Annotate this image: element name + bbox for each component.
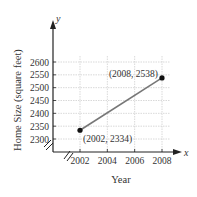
series-line bbox=[80, 78, 162, 130]
y-tick-labels: 2300235024002450250025502600 bbox=[30, 58, 56, 145]
y-axis-variable: y bbox=[55, 13, 61, 24]
data-point bbox=[77, 128, 82, 133]
y-tick-label: 2450 bbox=[30, 96, 49, 106]
y-tick-label: 2350 bbox=[30, 122, 49, 132]
x-tick-label: 2008 bbox=[153, 156, 172, 166]
x-axis-variable: x bbox=[183, 147, 189, 158]
x-tick-label: 2002 bbox=[71, 156, 90, 166]
x-tick-label: 2004 bbox=[98, 156, 117, 166]
line-chart: 2300235024002450250025502600 20022004200… bbox=[0, 0, 197, 197]
y-tick-label: 2600 bbox=[30, 58, 49, 68]
y-tick-label: 2500 bbox=[30, 83, 49, 93]
data-point-label: (2002, 2334) bbox=[83, 134, 132, 145]
y-tick-label: 2550 bbox=[30, 70, 49, 80]
data-point-label: (2008, 2538) bbox=[109, 69, 158, 80]
y-tick-label: 2400 bbox=[30, 109, 49, 119]
x-axis-arrow-icon bbox=[173, 149, 182, 155]
x-tick-label: 2006 bbox=[125, 156, 144, 166]
y-axis-label: Home Size (square feet) bbox=[12, 49, 24, 151]
data-point bbox=[159, 75, 164, 80]
data-series: (2002, 2334)(2008, 2538) bbox=[77, 69, 164, 145]
x-axis-label: Year bbox=[111, 174, 131, 185]
y-tick-label: 2300 bbox=[30, 135, 49, 145]
